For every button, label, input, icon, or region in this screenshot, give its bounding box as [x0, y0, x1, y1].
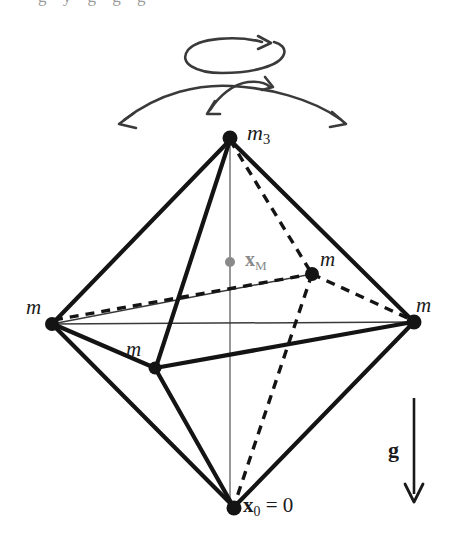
right-mass-label: m — [416, 293, 431, 318]
center-of-mass-marker — [225, 257, 235, 267]
gravity-label: g — [388, 437, 399, 463]
swing-arc-outer — [119, 86, 346, 128]
physics-diagram-octahedron: g y g g g — [0, 0, 453, 538]
center-of-mass-label: xM — [245, 248, 267, 274]
apex-mass-label: m3 — [247, 120, 270, 148]
swing-arrowhead-left-icon — [119, 113, 136, 128]
diagram-canvas — [0, 0, 453, 538]
edge-left-bottom — [53, 325, 233, 506]
back-mass-label: m — [320, 247, 335, 272]
origin-mass-dot — [227, 501, 242, 516]
diagonal-left-right — [52, 322, 414, 324]
left-mass-dot — [45, 317, 59, 331]
front-mass-label: m — [126, 337, 141, 362]
front-mass-dot — [149, 362, 162, 375]
internal-diagonals — [52, 274, 414, 324]
origin-label: x0 = 0 — [243, 493, 293, 520]
spin-rotation-arrow — [185, 36, 284, 73]
swing-arc-inner — [207, 77, 273, 114]
back-mass-dot — [305, 267, 319, 281]
edge-back-right — [312, 274, 412, 320]
left-mass-label: m — [26, 295, 41, 320]
edge-top-front — [156, 140, 230, 367]
edge-back-bottom — [234, 274, 312, 506]
edge-top-right — [230, 140, 413, 321]
apex-mass-dot — [223, 131, 238, 146]
swing-inner-arrowhead-down-icon — [207, 101, 220, 114]
gravity-vector — [405, 398, 423, 502]
